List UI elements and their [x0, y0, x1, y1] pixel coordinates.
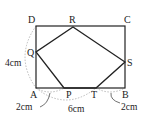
measure-AP: 2cm — [16, 102, 33, 112]
label-T: T — [91, 89, 97, 100]
measurement-arcs — [25, 26, 125, 100]
leader-2cm-left — [40, 93, 50, 107]
label-R: R — [69, 14, 76, 25]
label-P: P — [66, 89, 72, 100]
label-C: C — [124, 14, 131, 25]
measure-span: 6cm — [68, 104, 85, 114]
leader-2cm-right — [111, 93, 120, 103]
geometry-diagram: D R C Q S A P T B 4cm 2cm 6cm 2cm — [0, 0, 153, 119]
pentagon-PQRST — [36, 27, 125, 88]
label-B: B — [122, 89, 129, 100]
measure-AD: 4cm — [5, 58, 22, 68]
label-S: S — [127, 57, 133, 68]
label-D: D — [28, 14, 35, 25]
label-A: A — [30, 89, 38, 100]
label-Q: Q — [27, 47, 35, 58]
rectangle-ABCD — [36, 26, 125, 88]
measure-TB: 2cm — [121, 102, 138, 112]
